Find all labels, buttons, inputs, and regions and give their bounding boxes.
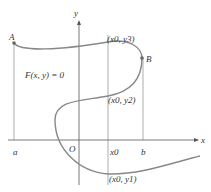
label-tick-b: b bbox=[141, 147, 146, 157]
label-x0-y2: (x0, y2) bbox=[108, 95, 135, 105]
label-y: y bbox=[73, 8, 78, 18]
label-b: B bbox=[146, 54, 152, 64]
label-a: A bbox=[8, 32, 15, 42]
point-b bbox=[140, 56, 144, 60]
label-x0-y3: (x0, y3) bbox=[107, 34, 134, 44]
label-tick-a: a bbox=[13, 147, 18, 157]
curve bbox=[14, 41, 200, 174]
y-axis-arrow-icon bbox=[77, 20, 81, 25]
implicit-curve-diagram: A B y x O a b x0 F(x, y) = 0 (x0, y3) (x… bbox=[0, 0, 211, 192]
x-axis-arrow-icon bbox=[194, 138, 199, 142]
label-x0-y1: (x0, y1) bbox=[109, 174, 136, 184]
label-origin: O bbox=[69, 144, 76, 154]
label-x: x bbox=[200, 135, 205, 145]
label-tick-x0: x0 bbox=[109, 147, 119, 157]
label-equation: F(x, y) = 0 bbox=[24, 70, 65, 80]
